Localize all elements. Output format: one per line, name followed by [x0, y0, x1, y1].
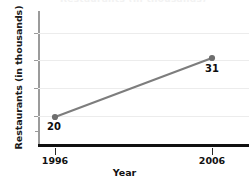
- x-tick-mark-1996: [55, 148, 56, 155]
- data-label-1996: 20: [47, 121, 61, 132]
- x-tick-mark-2006: [212, 148, 213, 155]
- x-tick-label-2006: 2006: [189, 155, 235, 166]
- chart-figure: Restaurants (in thousands) Restaurants (…: [0, 0, 249, 178]
- data-point-1996: [52, 114, 58, 120]
- x-axis-title: Year: [0, 167, 249, 178]
- x-axis-spine: [38, 144, 249, 147]
- data-point-2006: [209, 55, 215, 61]
- x-tick-label-1996: 1996: [32, 155, 78, 166]
- data-label-2006: 31: [205, 63, 219, 74]
